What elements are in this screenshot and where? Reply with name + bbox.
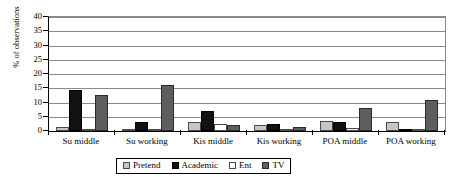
y-axis-tick-label: 40 [2,12,42,21]
legend-item: Pretend [123,160,161,171]
x-axis-tick-label: POA working [378,136,444,147]
bar-tv [425,100,438,131]
bar-group [181,17,247,131]
y-axis-tick-label: 30 [2,41,42,50]
legend-swatch-icon [262,162,269,169]
legend-swatch-icon [172,162,179,169]
x-axis-tick-mark [444,130,445,135]
bar-tv [161,85,174,131]
y-axis-tick-label: 15 [2,83,42,92]
bar-academic [69,90,82,131]
x-axis-tick-mark [114,130,115,135]
bar-tv [359,108,372,131]
x-axis-tick-label: Su working [114,136,180,147]
y-axis-tick-label: 35 [2,26,42,35]
x-axis-ticks [48,130,444,135]
x-axis-tick-mark [378,130,379,135]
y-axis-tick-label: 20 [2,69,42,78]
legend-label: Ent [239,160,252,171]
legend-label: Pretend [133,160,161,171]
x-axis-tick-mark [48,130,49,135]
bar-tv [95,95,108,131]
bar-group [247,17,313,131]
y-axis-tick-labels: 4035302520151050 [0,16,48,130]
x-axis-tick-label: Su middle [48,136,114,147]
x-axis-tick-mark [180,130,181,135]
y-axis-tick-label: 0 [2,126,42,135]
legend-label: Academic [182,160,218,171]
bar-group [313,17,379,131]
bar-group [49,17,115,131]
legend-label: TV [272,160,284,171]
bar-group [115,17,181,131]
legend-item: Ent [229,160,252,171]
bar-groups [49,17,445,131]
legend-item: TV [262,160,284,171]
legend-swatch-icon [229,162,236,169]
bar-chart-figure: % of observations 4035302520151050 Su mi… [0,0,451,177]
y-axis-tick-label: 5 [2,112,42,121]
x-axis-tick-label: POA middle [312,136,378,147]
x-axis-tick-mark [312,130,313,135]
y-axis-tick-label: 10 [2,98,42,107]
plot-area [48,16,446,132]
bar-group [379,17,445,131]
y-axis-tick-label: 25 [2,55,42,64]
x-axis-tick-mark [246,130,247,135]
legend-swatch-icon [123,162,130,169]
legend-item: Academic [172,160,218,171]
x-axis-tick-label: Kis working [246,136,312,147]
x-axis-tick-label: Kis middle [180,136,246,147]
bar-academic [201,111,214,131]
chart-legend: PretendAcademicEntTV [116,158,291,174]
x-axis-tick-labels: Su middleSu workingKis middleKis working… [48,136,444,147]
